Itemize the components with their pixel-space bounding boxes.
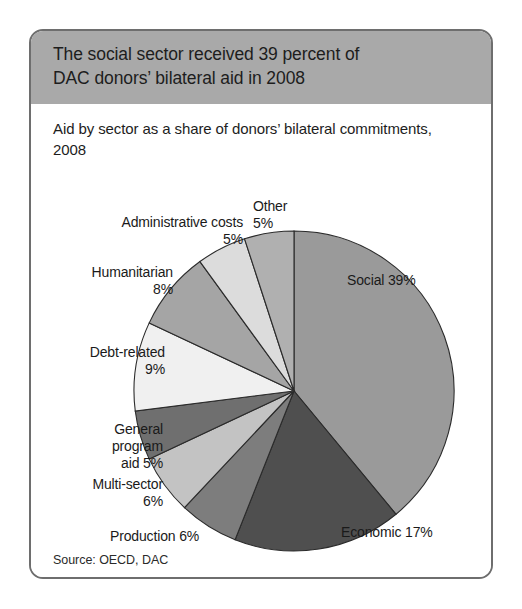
figure-title-line-1: The social sector received 39 percent of — [53, 42, 471, 66]
pie-label-general-program-aid: General program aid 5% — [51, 421, 163, 472]
figure-body: Aid by sector as a share of donors’ bila… — [31, 104, 491, 579]
pie-label-social: Social 39% — [347, 272, 416, 289]
pie-label-multi-sector: Multi-sector 6% — [53, 476, 163, 510]
figure-source: Source: OECD, DAC — [53, 553, 168, 567]
figure-header: The social sector received 39 percent of… — [31, 31, 491, 104]
pie-label-humanitarian: Humanitarian 8% — [45, 264, 173, 298]
pie-label-other: Other 5% — [253, 198, 287, 232]
pie-label-production: Production 6% — [110, 528, 199, 545]
pie-label-debt-related: Debt-related 9% — [37, 344, 165, 378]
screenshot-root: The social sector received 39 percent of… — [0, 0, 522, 609]
pie-label-economic: Economic 17% — [341, 524, 433, 541]
pie-label-administrative-costs: Administrative costs 5% — [73, 214, 243, 248]
figure-title-line-2: DAC donors’ bilateral aid in 2008 — [53, 66, 471, 90]
pie-chart: Social 39% Economic 17% Production 6% Mu… — [31, 104, 493, 579]
figure-card: The social sector received 39 percent of… — [29, 29, 493, 579]
